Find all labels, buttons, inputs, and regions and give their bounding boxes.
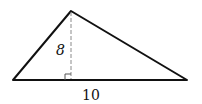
base-label: 10 bbox=[82, 87, 100, 103]
triangle-diagram: 8 10 bbox=[0, 0, 202, 104]
altitude-label: 8 bbox=[56, 42, 65, 58]
triangle-outline bbox=[13, 11, 187, 80]
